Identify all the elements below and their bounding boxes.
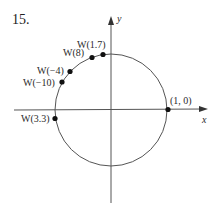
point-w-neg-10 xyxy=(59,79,64,84)
label-w-neg-10: W(−10) xyxy=(23,78,55,88)
point-w-3-3 xyxy=(52,116,57,121)
x-axis xyxy=(14,109,204,110)
point-1-0 xyxy=(165,107,170,112)
label-w-3-3: W(3.3) xyxy=(21,114,50,124)
label-point-1-0: (1, 0) xyxy=(170,96,192,106)
label-w-8: W(8) xyxy=(63,48,84,58)
label-w-neg-4: W(−4) xyxy=(37,66,64,76)
point-w-neg-4 xyxy=(67,69,72,74)
point-w-1-7 xyxy=(100,52,105,57)
x-axis-label: x xyxy=(202,115,206,125)
y-axis-arrow-icon xyxy=(108,16,114,25)
point-w-8 xyxy=(89,55,94,60)
x-axis-arrow-icon xyxy=(199,106,208,112)
y-axis-label: y xyxy=(117,14,121,24)
problem-number: 15. xyxy=(12,13,30,27)
